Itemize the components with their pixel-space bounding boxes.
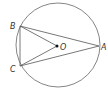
label-o: O	[60, 43, 66, 52]
segment-ob	[20, 26, 57, 46]
label-a: A	[100, 43, 106, 52]
label-b: B	[10, 22, 16, 31]
center-point-o	[56, 45, 59, 48]
geometry-diagram: B C O A	[0, 0, 108, 91]
segment-oc	[20, 46, 57, 66]
label-c: C	[10, 65, 16, 74]
